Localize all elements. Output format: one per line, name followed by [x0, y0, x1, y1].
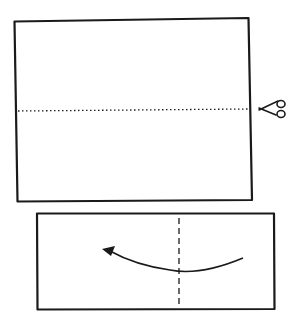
scissors-icon [259, 101, 285, 118]
curved-arrow-icon [102, 246, 243, 272]
step-1-sheet [15, 18, 253, 202]
cut-line [18, 109, 248, 111]
origami-diagram [0, 0, 299, 327]
step-2-sheet [37, 214, 275, 310]
